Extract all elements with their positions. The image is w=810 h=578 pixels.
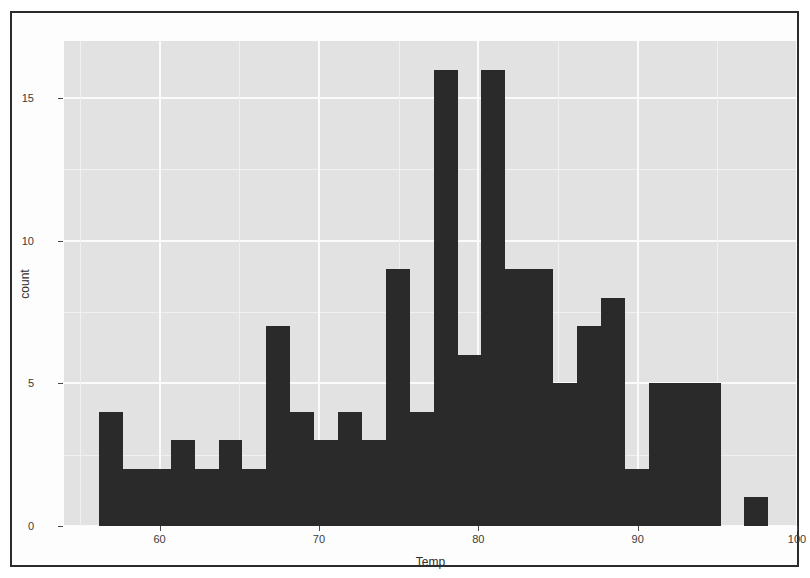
y-tick-mark (58, 526, 63, 527)
histogram-bar (147, 469, 171, 526)
histogram-bar (219, 440, 243, 526)
histogram-bar (266, 326, 290, 526)
x-tick-label: 60 (153, 534, 165, 545)
histogram-bar (529, 269, 553, 526)
histogram-bar (744, 497, 768, 526)
chart-panel (64, 41, 797, 526)
histogram-bar (625, 469, 649, 526)
histogram-bar (171, 440, 195, 526)
histogram-bar (601, 298, 625, 526)
histogram-bar (553, 383, 577, 526)
histogram-bar (458, 355, 482, 526)
y-tick-mark (58, 383, 63, 384)
y-axis-title: count (18, 41, 32, 526)
histogram-bar (481, 70, 505, 526)
y-axis-title-text: count (18, 269, 32, 298)
y-tick-mark (58, 241, 63, 242)
histogram-bar (649, 383, 673, 526)
histogram-bar (99, 412, 123, 526)
histogram-bar (290, 412, 314, 526)
figure-frame: 051015 60708090100 Temp count (10, 11, 799, 567)
histogram-bar (242, 469, 266, 526)
x-tick-label: 80 (472, 534, 484, 545)
histogram-bar (195, 469, 219, 526)
x-tick-mark (160, 526, 161, 531)
histogram-bars (64, 41, 797, 526)
x-axis-title: Temp (64, 555, 797, 569)
histogram-bar (123, 469, 147, 526)
histogram-bar (673, 383, 697, 526)
histogram-bar (577, 326, 601, 526)
x-tick-mark (478, 526, 479, 531)
x-tick-label: 70 (313, 534, 325, 545)
x-tick-mark (638, 526, 639, 531)
y-tick-mark (58, 98, 63, 99)
histogram-bar (434, 70, 458, 526)
x-tick-mark (319, 526, 320, 531)
x-tick-label: 100 (788, 534, 806, 545)
histogram-bar (338, 412, 362, 526)
histogram-bar (314, 440, 338, 526)
histogram-bar (410, 412, 434, 526)
histogram-bar (697, 383, 721, 526)
histogram-bar (386, 269, 410, 526)
plot-area: 051015 60708090100 Temp count (12, 13, 797, 565)
x-tick-label: 90 (632, 534, 644, 545)
figure-root: 051015 60708090100 Temp count (0, 0, 810, 578)
histogram-bar (362, 440, 386, 526)
x-tick-mark (797, 526, 798, 531)
histogram-bar (505, 269, 529, 526)
